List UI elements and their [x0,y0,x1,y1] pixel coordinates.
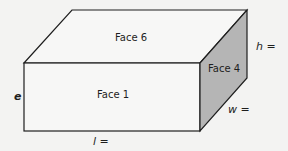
face-6-label: Face 6 [115,33,147,43]
cuboid-diagram: Face 6 Face 1 Face 4 h = w = l = e [0,0,288,151]
edge-label: e [14,91,21,102]
face-4-label: Face 4 [208,64,240,74]
cuboid-drawing [0,0,288,151]
length-label: l = [93,136,109,147]
face-1-label: Face 1 [97,90,129,100]
width-label: w = [228,104,250,115]
height-label: h = [256,41,276,52]
